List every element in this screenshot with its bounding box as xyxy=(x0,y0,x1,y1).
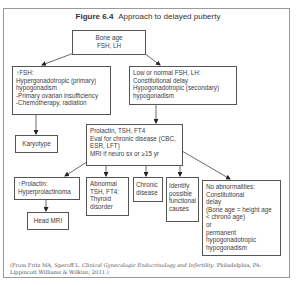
node-text: Constitutional delay xyxy=(133,77,233,85)
node-abnormal-tsh: Abnormal TSH, FT4: Thyroid disorder xyxy=(86,177,129,216)
node-text: Eval for chronic disease (CBC, xyxy=(90,135,179,143)
node-prolactin-eval: Prolactin, TSH, FT4 Eval for chronic dis… xyxy=(86,124,183,166)
node-text: Abnormal xyxy=(90,180,125,188)
node-low-fsh: Low or normal FSH, LH: Constitutional de… xyxy=(129,66,237,105)
node-text: No abnormalities: xyxy=(206,183,277,191)
node-karyotype: Karyotype xyxy=(15,135,58,153)
citation: (From Fritz MA, Speroff L. Clinical Gyne… xyxy=(10,262,285,276)
node-text: Constitutional xyxy=(206,191,277,199)
node-text: -Chemotherapy, radiation xyxy=(16,99,107,107)
node-text: ↑FSH: xyxy=(16,69,107,77)
node-text: Hypergonadotropic (primary) xyxy=(16,77,107,85)
node-text: Prolactin, TSH, FT4 xyxy=(90,127,179,135)
node-text: Hyperprolactinoma xyxy=(18,188,76,196)
node-text: TSH, FT4: xyxy=(90,188,125,196)
node-text: Hypogonadotropic (secondary) xyxy=(133,84,233,92)
node-text: permanent xyxy=(206,229,277,237)
node-text: FSH, LH xyxy=(76,42,142,50)
node-text: MRI if neuro sx or ≥15 yr xyxy=(90,150,179,158)
node-functional-causes: Identify possible functional causes xyxy=(166,177,199,222)
node-text: disorder xyxy=(90,203,125,211)
node-text: -Primary ovarian insufficiency xyxy=(16,92,107,100)
node-no-abnormalities: No abnormalities: Constitutional delay (… xyxy=(202,180,281,256)
node-text: (Bone age = height age xyxy=(206,206,277,214)
node-text: or xyxy=(206,221,277,229)
node-text: ESR, LFT) xyxy=(90,142,179,150)
node-text: ↑Prolactin: xyxy=(18,180,76,188)
node-text: Thyroid xyxy=(90,195,125,203)
citation-book: Clinical Gynecologic Endocrinology and I… xyxy=(82,262,214,268)
node-text: functional xyxy=(169,197,196,205)
node-text: disease xyxy=(136,189,160,197)
node-text: Chronic xyxy=(136,181,160,189)
node-text: Low or normal FSH, LH: xyxy=(133,69,233,77)
node-text: hypogonadotropic xyxy=(206,236,277,244)
node-text: hypogonadism xyxy=(206,244,277,252)
node-text: Karyotype xyxy=(19,140,54,148)
citation-prefix: (From Fritz MA, Speroff L. xyxy=(10,262,82,268)
node-text: causes xyxy=(169,205,196,213)
node-high-prolactin: ↑Prolactin: Hyperprolactinoma xyxy=(14,177,80,200)
node-text: < chrono age) xyxy=(206,213,277,221)
node-text: Bone age xyxy=(76,34,142,42)
node-chronic-disease: Chronic disease xyxy=(133,177,163,202)
node-text: hypogonadism xyxy=(16,84,107,92)
node-text: delay xyxy=(206,198,277,206)
node-head-mri: Head MRI xyxy=(27,212,69,230)
node-bone-age: Bone age FSH, LH xyxy=(72,30,146,55)
node-text: hypogonadism xyxy=(133,92,233,100)
node-text: Head MRI xyxy=(31,217,65,225)
node-text: possible xyxy=(169,190,196,198)
node-high-fsh: ↑FSH: Hypergonadotropic (primary) hypogo… xyxy=(12,66,111,115)
node-text: Identify xyxy=(169,182,196,190)
